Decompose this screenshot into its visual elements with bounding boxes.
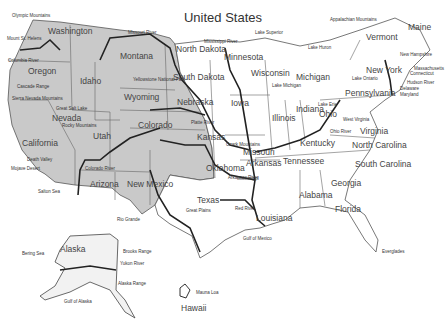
feature-label: Olympic Mountains — [12, 13, 51, 18]
feature-label: Great Plains — [186, 208, 212, 213]
state-label: Minnesota — [224, 52, 263, 62]
feature-label: Red River — [235, 206, 256, 211]
state-label: Georgia — [331, 178, 362, 188]
feature-label: Salton Sea — [38, 189, 61, 194]
feature-label: Lake Huron — [308, 45, 332, 50]
state-label: New Mexico — [127, 179, 174, 189]
state-label: Kansas — [197, 132, 225, 142]
state-label: Tennessee — [283, 156, 324, 166]
feature-label: Connecticut — [410, 71, 435, 76]
state-label: Ohio — [319, 109, 337, 119]
hawaii — [180, 284, 190, 298]
state-label: Wisconsin — [251, 68, 290, 78]
feature-label: Yukon River — [120, 261, 145, 266]
state-label: Missouri — [243, 147, 275, 157]
state-label: Florida — [335, 204, 361, 214]
feature-label: Bering Sea — [22, 251, 45, 256]
state-label: Oregon — [28, 66, 57, 76]
state-label: Iowa — [231, 98, 249, 108]
feature-label: Platte River — [191, 120, 215, 125]
feature-label: Colorado River — [85, 166, 116, 171]
state-label: Louisiana — [256, 213, 293, 223]
state-label: Hawaii — [181, 303, 207, 313]
feature-label: Death Valley — [27, 157, 53, 162]
feature-label: New Hampshire — [400, 52, 433, 57]
state-label: Arkansas — [246, 158, 281, 168]
feature-label: Great Salt Lake — [56, 106, 88, 111]
state-label: South Carolina — [355, 159, 412, 169]
feature-label: Hudson River — [407, 80, 435, 85]
feature-label: Columbia River — [8, 58, 39, 63]
state-label: Alaska — [60, 244, 86, 254]
feature-label: Rio Grande — [117, 217, 141, 222]
feature-label: Mount St. Helens — [7, 36, 42, 41]
state-label: Alabama — [299, 190, 333, 200]
state-label: Michigan — [296, 72, 330, 82]
feature-label: Lake Michigan — [272, 83, 302, 88]
feature-label: Mojave Desert — [11, 166, 41, 171]
feature-label: Cascade Range — [17, 84, 50, 89]
state-label: Illinois — [272, 113, 296, 123]
feature-label: Yellowstone National Park — [133, 77, 186, 82]
state-label: Utah — [93, 131, 111, 141]
feature-label: Missouri River — [128, 30, 157, 35]
state-label: Arizona — [90, 179, 119, 189]
feature-label: Gulf of Mexico — [243, 236, 272, 241]
feature-label: Maryland — [400, 92, 419, 97]
state-label: Idaho — [80, 76, 102, 86]
state-label: North Carolina — [352, 140, 407, 150]
feature-label: Everglades — [382, 249, 405, 254]
feature-label: Ohio River — [330, 129, 352, 134]
feature-label: Mississippi River — [204, 39, 238, 44]
feature-label: Gulf of Alaska — [64, 299, 92, 304]
feature-label: Lake Ontario — [352, 76, 378, 81]
state-label: Kentucky — [300, 138, 336, 148]
state-label: Oklahoma — [206, 163, 245, 173]
feature-label: Mississippi — [237, 176, 259, 181]
state-label: Pennsylvania — [345, 88, 396, 98]
state-label: Wyoming — [124, 92, 160, 102]
state-label: Texas — [197, 195, 219, 205]
feature-label: Brooks Range — [123, 249, 152, 254]
state-label: Virginia — [360, 126, 388, 136]
state-label: Montana — [120, 51, 153, 61]
us-map: United States WashingtonOregonIdahoMonta… — [0, 0, 447, 334]
feature-label: Mauna Loa — [196, 290, 219, 295]
feature-label: Alaska Range — [118, 281, 147, 286]
state-label: Nebraska — [177, 97, 214, 107]
map-title: United States — [184, 10, 263, 25]
feature-label: Delaware — [400, 86, 420, 91]
state-label: Washington — [48, 26, 93, 36]
feature-label: West Virginia — [343, 117, 370, 122]
state-label: California — [22, 138, 58, 148]
state-label: North Dakota — [176, 44, 226, 54]
state-label: Nevada — [52, 113, 82, 123]
state-label: New York — [366, 65, 403, 75]
feature-label: Lake Erie — [318, 102, 338, 107]
state-label: Maine — [408, 22, 431, 32]
state-label: Vermont — [366, 32, 398, 42]
feature-label: Sierra Nevada Mountains — [12, 96, 64, 101]
state-label: Colorado — [138, 120, 173, 130]
feature-label: Appalachian Mountains — [330, 17, 378, 22]
alaska — [40, 234, 135, 318]
feature-label: Rocky Mountains — [62, 123, 97, 128]
feature-label: Ozark Mountains — [226, 142, 261, 147]
feature-label: Lake Superior — [255, 30, 284, 35]
